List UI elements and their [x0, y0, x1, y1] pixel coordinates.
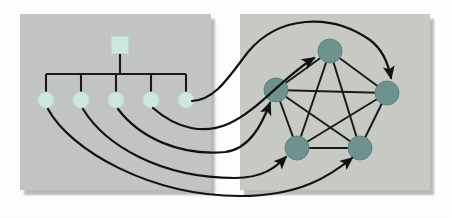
tree-leaf-node-3	[108, 92, 124, 108]
graph-node-g-bottom-left	[285, 136, 309, 160]
tree-leaf-node-1	[38, 92, 54, 108]
tree-leaf-node-2	[73, 92, 89, 108]
tree-root-node	[112, 37, 129, 54]
graph-node-g-bottom-right	[348, 136, 372, 160]
diagram-canvas	[0, 0, 452, 218]
graph-node-g-right	[375, 81, 399, 105]
graph-node-g-top	[318, 39, 342, 63]
figure-root	[0, 0, 452, 218]
tree-leaf-node-4	[143, 92, 159, 108]
